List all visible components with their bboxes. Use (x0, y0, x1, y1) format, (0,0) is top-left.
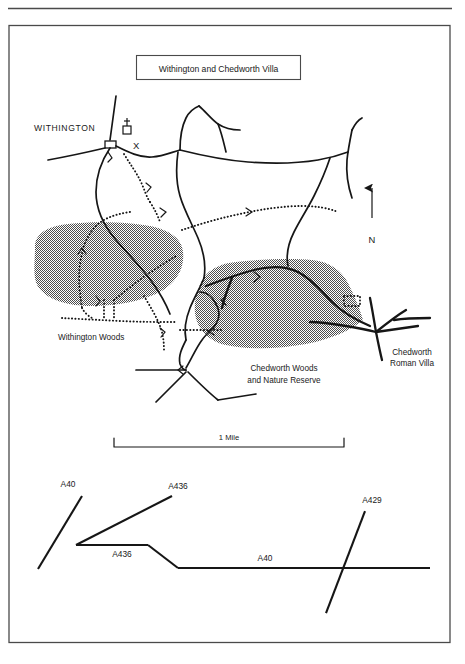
bridge-symbol (105, 141, 116, 148)
label-chedworth-villa-line1: Chedworth (392, 348, 432, 357)
diagram-label-a40-east: A40 (258, 553, 273, 563)
road-to-chedworth-ridge (287, 158, 330, 266)
road-lower-junction-se (188, 372, 218, 400)
withington-woods-shape (34, 222, 183, 306)
church-symbol (123, 118, 131, 134)
compass-label: N (369, 234, 376, 245)
footpath-woods-south (62, 318, 176, 322)
diagram-label-a40-nw: A40 (61, 479, 76, 489)
road-lower-junction-sw (156, 372, 186, 402)
arrow-tick-3 (160, 208, 166, 217)
label-withington: WITHINGTON (34, 123, 95, 133)
road-south-edge (218, 394, 256, 400)
road-west (48, 148, 105, 160)
road-diagram: A40 A436 A436 A40 A429 (38, 479, 430, 613)
scale-bar: 1 Mile (114, 433, 344, 447)
title-text: Withington and Chedworth Villa (159, 64, 279, 74)
arrow-tick-2 (146, 183, 151, 192)
road-villa-fan-s (376, 332, 382, 360)
footpath-withington-south (124, 154, 150, 202)
footpath-woods-vertical (82, 308, 92, 318)
figure-page: Withington and Chedworth Villa (0, 0, 465, 664)
label-chedworth-villa-line2: Roman Villa (390, 359, 434, 368)
diagram-line-a436-to-a40 (148, 545, 178, 568)
label-chedworth-woods-line2: and Nature Reserve (247, 376, 321, 385)
diagram-label-a429: A429 (362, 495, 382, 505)
label-chedworth-woods-line1: Chedworth Woods (250, 364, 317, 373)
footpath-mid-valley (182, 206, 338, 230)
label-withington-woods: Withington Woods (58, 333, 124, 342)
footpath-woods-to-lower (144, 296, 164, 350)
arrow-tick-1 (108, 152, 112, 162)
scale-bar-label: 1 Mile (219, 433, 239, 442)
map-figure: Withington and Chedworth Villa (0, 0, 465, 664)
road-villa-fan-ene (394, 318, 430, 320)
x-marker: X (133, 140, 140, 151)
title-box: Withington and Chedworth Villa (137, 56, 301, 80)
road-right-north (347, 130, 352, 198)
road-east-ridge (180, 150, 348, 163)
footpath-east-ridge (150, 202, 160, 222)
diagram-label-a436-link: A436 (112, 549, 132, 559)
road-east-from-bridge (116, 146, 180, 157)
diagram-line-a429 (326, 511, 365, 613)
road-north-centre (180, 106, 199, 150)
diagram-line-a436-ne (76, 496, 172, 545)
diagram-line-a40-nw (38, 496, 82, 569)
chedworth-woods-shape (195, 259, 363, 348)
road-withington-north (110, 96, 116, 140)
compass-north-arrow: N (369, 188, 376, 245)
diagram-label-a436-ne: A436 (168, 481, 188, 491)
road-villa-fan-n (370, 298, 376, 332)
road-right-upper-curve (352, 118, 362, 130)
